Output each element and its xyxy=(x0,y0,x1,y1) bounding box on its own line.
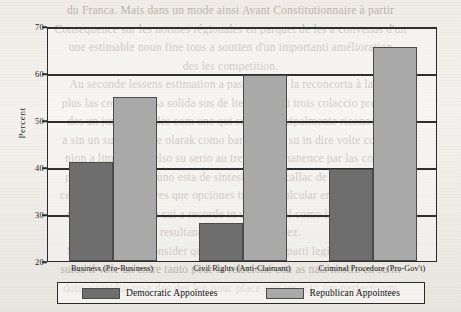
light-gray-swatch xyxy=(266,288,304,299)
y-tick-mark xyxy=(42,26,47,28)
y-tick-label: 70 xyxy=(18,22,44,32)
bar-republican xyxy=(243,75,287,261)
bar-democratic xyxy=(199,223,243,261)
y-tick-label: 60 xyxy=(18,69,44,79)
legend-label-democratic: Democratic Appointees xyxy=(126,288,218,298)
y-tick-mark xyxy=(42,167,47,169)
bar-group xyxy=(69,28,157,261)
x-axis-label: Business (Pro-Business) xyxy=(47,264,177,273)
y-tick-label: 40 xyxy=(18,163,44,173)
bar-democratic xyxy=(69,162,113,261)
chart-legend: Democratic Appointees Republican Appoint… xyxy=(57,282,425,304)
y-tick-label: 50 xyxy=(18,116,44,126)
bar-democratic xyxy=(329,169,373,261)
y-axis-ticks: 203040506070 xyxy=(12,27,44,262)
x-axis-label: Criminal Procedure (Pro-Gov't) xyxy=(307,264,437,273)
legend-item-democratic: Democratic Appointees xyxy=(82,288,218,299)
y-tick-mark xyxy=(42,120,47,122)
bar-group xyxy=(199,28,287,261)
legend-item-republican: Republican Appointees xyxy=(266,288,401,299)
bar-republican xyxy=(113,97,157,262)
bars-layer xyxy=(48,28,436,261)
x-axis-label: Civil Rights (Anti-Claimant) xyxy=(177,264,307,273)
dark-gray-swatch xyxy=(82,288,120,299)
y-tick-mark xyxy=(42,261,47,263)
y-tick-mark xyxy=(42,73,47,75)
legend-label-republican: Republican Appointees xyxy=(310,288,401,298)
bar-group xyxy=(329,28,417,261)
bar-chart-figure: Percent 203040506070 Business (Pro-Busin… xyxy=(0,0,461,312)
plot-area xyxy=(47,27,437,262)
y-tick-label: 30 xyxy=(18,210,44,220)
y-tick-mark xyxy=(42,214,47,216)
bar-republican xyxy=(373,47,417,261)
x-axis-labels: Business (Pro-Business)Civil Rights (Ant… xyxy=(47,264,437,278)
y-tick-label: 20 xyxy=(18,257,44,267)
